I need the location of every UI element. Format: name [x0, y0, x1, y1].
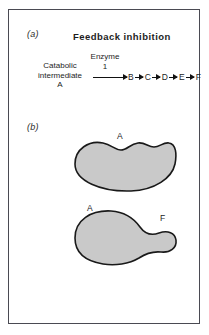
- panel-title-feedback-inhibition: Feedback inhibition: [73, 31, 171, 42]
- enzyme-unbound-svg: [69, 134, 179, 196]
- figure-root: (a) Feedback inhibition Catabolic interm…: [0, 0, 209, 335]
- substrate-line-1: Catabolic: [29, 61, 91, 71]
- site-label-a-bottom: A: [87, 204, 93, 213]
- pathway-diagram: Catabolic intermediate A Enzyme 1 B C D …: [17, 50, 209, 98]
- reaction-arrow-e-f: [186, 77, 194, 78]
- enzyme-number: 1: [83, 62, 127, 72]
- enzyme-unbound-path: [75, 142, 176, 191]
- site-label-f-bottom: F: [160, 214, 165, 223]
- metabolite-c: C: [145, 73, 151, 82]
- panel-label-a: (a): [27, 29, 39, 39]
- reaction-arrow-d-e: [169, 77, 177, 78]
- metabolite-b: B: [128, 73, 134, 82]
- substrate-line-2: intermediate: [29, 71, 91, 81]
- site-label-a-top: A: [117, 132, 123, 141]
- enzyme-shape-unbound: [69, 134, 179, 196]
- reaction-arrow-enzyme1: [93, 77, 127, 78]
- metabolite-chain: B C D E F: [91, 71, 201, 83]
- metabolite-d: D: [162, 73, 168, 82]
- metabolite-f: F: [196, 73, 201, 82]
- metabolite-e: E: [179, 73, 185, 82]
- reaction-arrow-c-d: [152, 77, 160, 78]
- enzyme-label: Enzyme 1: [83, 52, 127, 71]
- enzyme-shapes-panel: A A F: [17, 116, 209, 276]
- figure-frame: (a) Feedback inhibition Catabolic interm…: [8, 9, 200, 324]
- substrate-line-3: A: [29, 80, 91, 90]
- enzyme-name: Enzyme: [83, 52, 127, 62]
- substrate-label: Catabolic intermediate A: [29, 61, 91, 90]
- reaction-arrow-b-c: [135, 77, 143, 78]
